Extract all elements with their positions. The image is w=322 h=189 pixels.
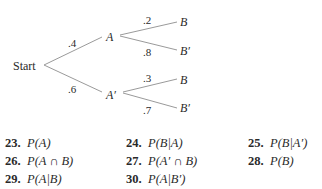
- tree-branches: [0, 0, 322, 120]
- exercise-27: 27.P(A′ ∩ B): [126, 153, 197, 169]
- prob-A-prime-B: .3: [143, 72, 151, 84]
- exercise-29: 29.P(A|B): [5, 171, 62, 187]
- leaf-A-B-prime-label: B′: [180, 45, 190, 57]
- prob-start-A: .4: [68, 37, 76, 49]
- node-A-prime-label: A′: [106, 89, 116, 101]
- exercise-26: 26.P(A ∩ B): [5, 153, 73, 169]
- exercise-row: 26.P(A ∩ B) 27.P(A′ ∩ B) 28.P(B): [0, 153, 322, 169]
- exercise-24: 24.P(B|A): [126, 135, 183, 151]
- exercise-28: 28.P(B): [248, 153, 294, 169]
- prob-start-A-prime: .6: [68, 83, 76, 95]
- exercise-30: 30.P(A|B′): [126, 171, 185, 187]
- exercise-25: 25.P(B|A′): [248, 135, 307, 151]
- node-A-label: A: [106, 31, 113, 43]
- leaf-A-prime-B-label: B: [180, 74, 187, 86]
- start-node-label: Start: [13, 60, 36, 72]
- exercise-row: 23.P(A) 24.P(B|A) 25.P(B|A′): [0, 135, 322, 151]
- probability-tree-diagram: Start .4 .6 A A′ .2 .8 .3 .7 B B′ B B′: [0, 0, 322, 120]
- exercise-23: 23.P(A): [5, 135, 51, 151]
- exercise-row: 29.P(A|B) 30.P(A|B′): [0, 171, 322, 187]
- leaf-A-prime-B-prime-label: B′: [180, 102, 190, 114]
- prob-A-B: .2: [143, 14, 151, 26]
- leaf-A-B-label: B: [180, 16, 187, 28]
- prob-A-B-prime: .8: [143, 46, 151, 58]
- prob-A-prime-B-prime: .7: [143, 104, 151, 116]
